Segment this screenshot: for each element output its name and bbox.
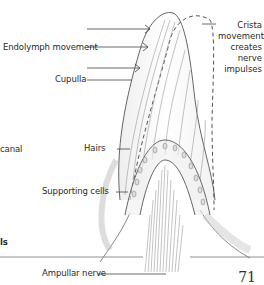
crista-line-2: movement <box>218 31 262 42</box>
crista-line-1: Crista <box>218 20 262 31</box>
crista-line-4: nerve <box>218 53 262 64</box>
label-crista-movement: Crista movement creates nerve impulses <box>218 20 262 75</box>
label-ampullar-nerve: Ampullar nerve <box>42 268 106 278</box>
label-cupulla: Cupulla <box>55 74 86 84</box>
label-supporting-cells: Supporting cells <box>42 186 109 196</box>
crista-line-3: creates <box>218 42 262 53</box>
label-canal-fragment: canal <box>0 144 22 154</box>
label-cells-fragment: ls <box>0 237 8 247</box>
endolymph-arrow-1 <box>87 25 150 33</box>
endolymph-arrow-3 <box>87 64 140 72</box>
label-hairs: Hairs <box>84 143 105 153</box>
crista-line-5: impulses <box>218 64 262 75</box>
page-number: 71 <box>238 269 256 285</box>
label-endolymph-movement: Endolymph movement <box>3 42 98 52</box>
